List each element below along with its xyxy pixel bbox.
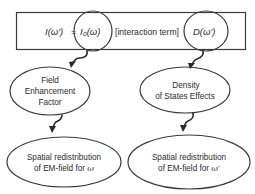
node-spatial-redistribution-omega-prime: Spatial redistribution of EM-field for ω… [128,135,250,189]
equation-lhs: I(ω′) [45,26,63,37]
spatial-omega-line2: of EM-field for ω [34,163,94,173]
field-enhancement-line1: Field [41,76,59,85]
spatial-omega-line1: Spatial redistribution [27,153,102,162]
density-line1: Density [172,81,200,90]
connector-term1-to-field-enhancement [69,51,87,68]
arrow-head-icon [69,61,76,68]
spatial-omega-prime-line1: Spatial redistribution [152,153,227,162]
spatial-omega-prime-line2: of EM-field for ω′ [158,163,220,173]
connector-density-to-spatial-omega-prime [180,113,193,132]
equation-term1: I₀(ω) [80,26,100,37]
field-enhancement-line2: Enhancement [25,87,76,96]
flow-diagram: I(ω′) = I₀(ω) [interaction term] D(ω′) F… [0,0,255,194]
arrow-head-icon [49,126,56,133]
node-spatial-redistribution-omega: Spatial redistribution of EM-field for ω [7,137,121,187]
node-field-enhancement: Field Enhancement Factor [10,67,90,115]
connector-term2-to-density [188,51,203,69]
equation-box: I(ω′) = I₀(ω) [interaction term] D(ω′) [17,11,246,51]
equation-term2: D(ω′) [193,26,215,37]
equation-interaction-term: [interaction term] [115,27,179,37]
density-line2: of States Effects [155,92,214,101]
node-density-of-states: Density of States Effects [140,67,230,113]
field-enhancement-line3: Factor [38,98,61,107]
connector-field-enhancement-to-spatial-omega [49,115,62,133]
arrow-head-icon [180,125,187,132]
arrow-head-icon [188,63,195,69]
